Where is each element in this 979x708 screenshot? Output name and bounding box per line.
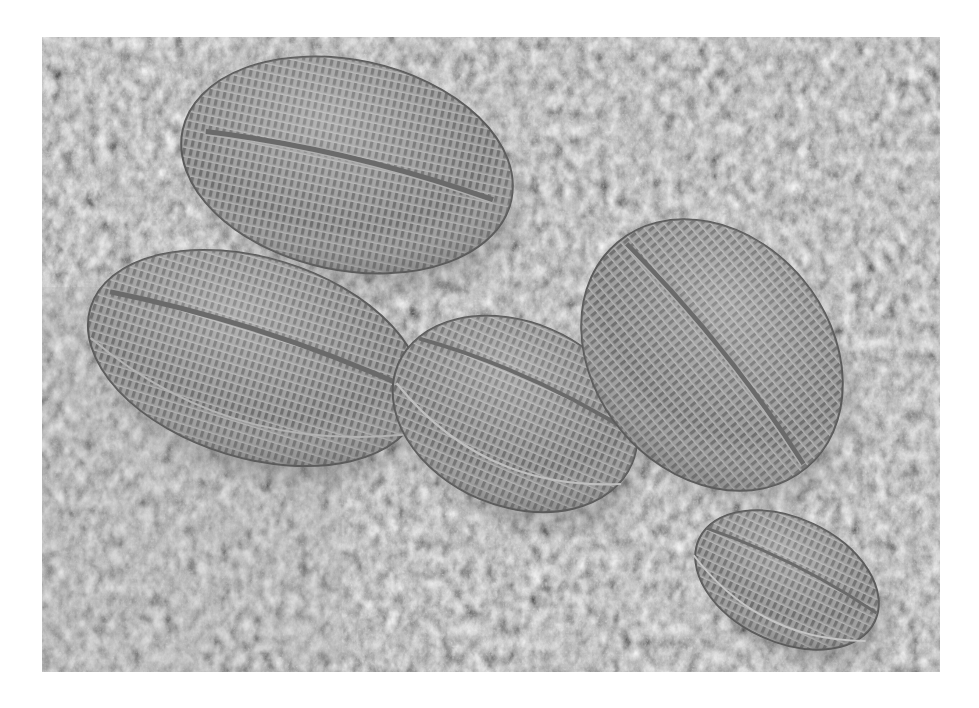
diatom-scene <box>42 37 940 672</box>
sem-micrograph <box>42 37 940 672</box>
